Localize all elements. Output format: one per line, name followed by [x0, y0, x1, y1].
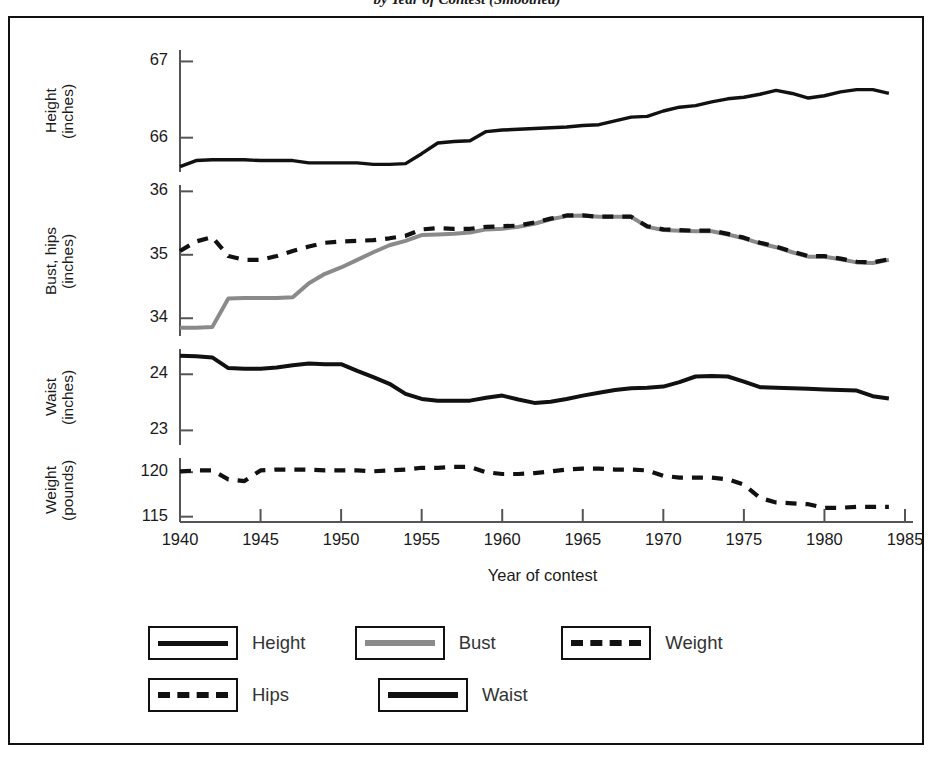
legend-row: HipsWaist [148, 669, 768, 721]
y-tick-label-120: 120 [110, 461, 168, 480]
legend-line-solid-thick [388, 692, 458, 698]
legend-label-weight: Weight [665, 632, 722, 654]
legend-item-waist[interactable]: Waist [378, 678, 608, 712]
legend-swatch-height [148, 626, 238, 660]
x-axis-title: Year of contest [180, 566, 905, 585]
legend-label-hips: Hips [252, 684, 289, 706]
y-tick-label-24: 24 [110, 363, 168, 382]
x-tick-label-1955: 1955 [384, 530, 460, 549]
chart-legend: HeightBustWeightHipsWaist [148, 617, 768, 721]
legend-swatch-weight [561, 626, 651, 660]
legend-line-solid [365, 640, 435, 646]
x-tick-label-1985: 1985 [867, 530, 934, 549]
y-tick-label-23: 23 [110, 419, 168, 438]
y-axis-title-weight: Weight (pounds) [42, 420, 102, 560]
legend-item-height[interactable]: Height [148, 626, 355, 660]
x-tick-label-1950: 1950 [303, 530, 379, 549]
x-tick-label-1975: 1975 [706, 530, 782, 549]
y-axis-title-height: Height (inches) [42, 41, 102, 181]
series-line-weight [180, 467, 889, 508]
legend-swatch-bust [355, 626, 445, 660]
y-tick-label-36: 36 [110, 180, 168, 199]
legend-swatch-waist [378, 678, 468, 712]
legend-label-height: Height [252, 632, 305, 654]
y-axis-title-bust-hips: Bust, hips (inches) [42, 191, 102, 331]
series-line-bust [180, 215, 889, 327]
legend-line-dashed [571, 640, 641, 646]
legend-item-weight[interactable]: Weight [561, 626, 768, 660]
y-tick-label-66: 66 [110, 127, 168, 146]
y-tick-label-35: 35 [110, 244, 168, 263]
legend-label-bust: Bust [459, 632, 496, 654]
x-tick-label-1940: 1940 [142, 530, 218, 549]
series-line-waist [180, 356, 889, 403]
series-line-height [180, 90, 889, 167]
y-tick-label-34: 34 [110, 307, 168, 326]
x-tick-label-1960: 1960 [464, 530, 540, 549]
x-tick-label-1965: 1965 [545, 530, 621, 549]
x-tick-label-1980: 1980 [786, 530, 862, 549]
legend-label-waist: Waist [482, 684, 528, 706]
legend-item-bust[interactable]: Bust [355, 626, 562, 660]
x-tick-label-1945: 1945 [223, 530, 299, 549]
y-tick-label-67: 67 [110, 50, 168, 69]
legend-item-hips[interactable]: Hips [148, 678, 378, 712]
x-tick-label-1970: 1970 [625, 530, 701, 549]
y-tick-label-115: 115 [110, 506, 168, 525]
legend-line-solid [158, 641, 228, 646]
legend-row: HeightBustWeight [148, 617, 768, 669]
legend-line-dashed [158, 692, 228, 698]
legend-swatch-hips [148, 678, 238, 712]
